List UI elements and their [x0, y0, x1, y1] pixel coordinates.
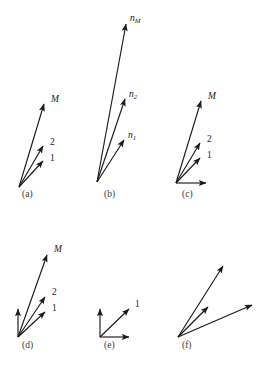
panel-d: M21(d): [18, 244, 63, 351]
panel-f: (f): [178, 266, 252, 351]
vector-diagram-figure: M21(a)nMn2n1(b)M21(c)M21(d)1(e)(f): [0, 0, 271, 370]
vector-arrow-c-2: [176, 143, 200, 183]
vector-arrow-a-2: [19, 146, 43, 187]
vector-arrow-a-M: [19, 104, 44, 187]
vector-arrow-f-middle: [178, 307, 208, 337]
panel-a: M21(a): [19, 94, 60, 200]
vector-arrow-f-upper: [178, 266, 223, 337]
vector-arrow-d-M: [18, 255, 47, 337]
panel-caption-b: (b): [104, 189, 115, 200]
panel-c: M21(c): [176, 91, 217, 200]
vector-label-a-2: 2: [50, 137, 55, 147]
vector-arrow-b-n-M: [97, 24, 126, 182]
panel-caption-c: (c): [182, 189, 193, 200]
vector-arrow-f-lower: [178, 305, 252, 337]
panel-caption-e: (e): [104, 340, 115, 351]
vector-label-a-1: 1: [50, 153, 55, 163]
vector-label-a-M: M: [50, 94, 60, 104]
panel-caption-d: (d): [22, 340, 33, 351]
vector-label-c-2: 2: [207, 134, 212, 144]
vector-label-b-n-2: n2: [129, 89, 138, 100]
vector-label-c-M: M: [207, 91, 217, 101]
panel-caption-a: (a): [22, 189, 33, 200]
vector-label-e-1: 1: [135, 299, 140, 309]
figure-canvas: M21(a)nMn2n1(b)M21(c)M21(d)1(e)(f): [0, 0, 271, 370]
vector-arrow-b-n-2: [97, 99, 125, 182]
panel-caption-f: (f): [182, 340, 192, 351]
vector-label-subscript-b-n-1: 1: [133, 134, 136, 141]
vector-label-d-2: 2: [52, 287, 57, 297]
vector-label-d-1: 1: [52, 303, 57, 313]
vector-label-subscript-b-n-2: 2: [134, 93, 138, 100]
vector-label-b-n-M: nM: [130, 13, 141, 24]
panel-e: 1(e): [100, 299, 140, 351]
vector-label-c-1: 1: [207, 150, 212, 160]
vector-arrow-e-1: [100, 309, 129, 337]
vector-label-subscript-b-n-M: M: [134, 17, 141, 24]
panels-layer: M21(a)nMn2n1(b)M21(c)M21(d)1(e)(f): [18, 13, 252, 351]
vector-arrow-d-2: [18, 297, 45, 337]
vector-label-b-n-1: n1: [128, 130, 136, 141]
vector-label-d-M: M: [53, 244, 63, 254]
panel-b: nMn2n1(b): [97, 13, 141, 200]
